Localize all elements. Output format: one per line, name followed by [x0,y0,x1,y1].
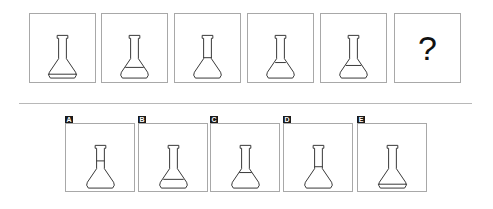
flask-icon [248,14,313,82]
sequence-cell-1 [29,13,96,83]
sequence-cell-5 [320,13,387,83]
flask-icon [102,14,167,82]
option-c[interactable] [210,123,280,192]
sequence-cell-4 [247,13,314,83]
divider [19,103,472,104]
flask-icon [30,14,95,82]
option-a[interactable] [65,123,135,192]
flask-icon [321,14,386,82]
question-mark: ? [395,14,460,82]
flask-icon [66,124,134,191]
flask-icon [175,14,240,82]
flask-icon [211,124,279,191]
sequence-cell-3 [174,13,241,83]
option-b[interactable] [138,123,208,192]
sequence-cell-unknown: ? [394,13,461,83]
flask-icon [284,124,352,191]
sequence-cell-2 [101,13,168,83]
option-e[interactable] [357,123,427,192]
flask-icon [139,124,207,191]
flask-icon [358,124,426,191]
option-d[interactable] [283,123,353,192]
